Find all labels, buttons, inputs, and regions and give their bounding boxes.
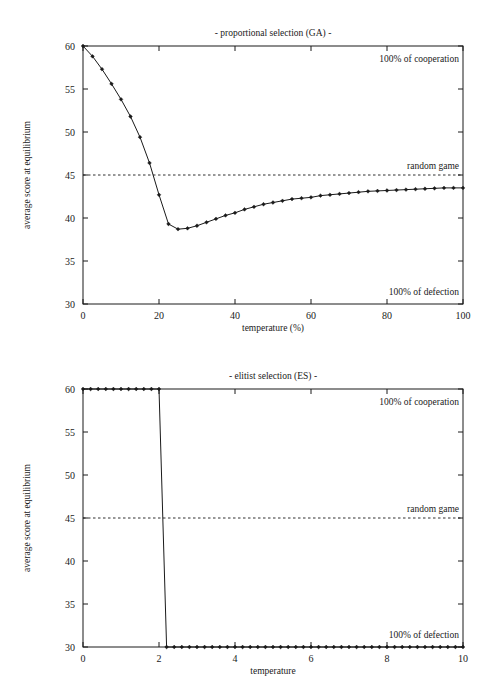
- y-tick-label: 30: [65, 299, 75, 310]
- annotation--of-defection: 100% of defection: [389, 630, 459, 640]
- data-point-marker: [188, 645, 192, 649]
- data-point-marker: [454, 645, 458, 649]
- data-point-marker: [150, 387, 154, 391]
- annotation-random-game: random game: [407, 161, 459, 171]
- data-point-marker: [271, 201, 275, 205]
- data-point-marker: [328, 193, 332, 197]
- proportional-selection-ga-svg: - proportional selection (GA) -303540455…: [0, 0, 495, 343]
- data-point-marker: [395, 188, 399, 192]
- x-tick-label: 0: [81, 653, 86, 664]
- data-point-marker: [271, 645, 275, 649]
- data-point-marker: [279, 645, 283, 649]
- data-point-marker: [317, 645, 321, 649]
- x-tick-label: 8: [385, 653, 390, 664]
- y-tick-label: 35: [65, 256, 75, 267]
- y-tick-label: 60: [65, 41, 75, 52]
- data-point-marker: [112, 387, 116, 391]
- data-point-marker: [446, 645, 450, 649]
- x-tick-label: 80: [382, 310, 392, 321]
- data-point-marker: [233, 211, 237, 215]
- elitist-selection-es-svg: - elitist selection (ES) -30354045505560…: [0, 343, 495, 686]
- data-point-marker: [416, 645, 420, 649]
- x-tick-label: 2: [157, 653, 162, 664]
- data-point-marker: [180, 645, 184, 649]
- y-axis-label: average score at equilibrium: [22, 463, 32, 571]
- data-point-marker: [172, 645, 176, 649]
- x-tick-label: 20: [154, 310, 164, 321]
- data-point-marker: [309, 645, 313, 649]
- data-point-marker: [224, 214, 228, 218]
- x-tick-label: 100: [456, 310, 471, 321]
- y-tick-label: 60: [65, 384, 75, 395]
- data-point-marker: [195, 224, 199, 228]
- y-tick-label: 45: [65, 170, 75, 181]
- figure-page: - proportional selection (GA) -303540455…: [0, 0, 495, 686]
- data-point-marker: [414, 187, 418, 191]
- data-point-marker: [205, 220, 209, 224]
- data-point-marker: [262, 202, 266, 206]
- data-point-marker: [167, 222, 171, 226]
- data-point-marker: [148, 161, 152, 165]
- chart-title: - elitist selection (ES) -: [229, 371, 317, 382]
- data-point-marker: [408, 645, 412, 649]
- data-point-marker: [385, 645, 389, 649]
- data-point-marker: [461, 645, 465, 649]
- data-point-marker: [127, 387, 131, 391]
- data-point-marker: [226, 645, 230, 649]
- data-point-marker: [370, 645, 374, 649]
- data-point-marker: [442, 186, 446, 190]
- data-point-marker: [362, 645, 366, 649]
- data-point-marker: [385, 189, 389, 193]
- data-point-marker: [195, 645, 199, 649]
- data-point-marker: [357, 190, 361, 194]
- y-tick-label: 50: [65, 127, 75, 138]
- data-point-marker: [134, 387, 138, 391]
- annotation-random-game: random game: [407, 504, 459, 514]
- y-tick-label: 55: [65, 84, 75, 95]
- x-tick-label: 6: [309, 653, 314, 664]
- data-point-marker: [378, 645, 382, 649]
- data-point-marker: [461, 186, 465, 190]
- data-point-marker: [366, 189, 370, 193]
- data-point-marker: [452, 186, 456, 190]
- x-tick-label: 4: [233, 653, 238, 664]
- data-point-marker: [393, 645, 397, 649]
- data-point-marker: [157, 193, 161, 197]
- data-point-marker: [376, 189, 380, 193]
- data-point-marker: [431, 645, 435, 649]
- data-point-marker: [248, 645, 252, 649]
- chart-title: - proportional selection (GA) -: [215, 28, 332, 39]
- x-tick-label: 0: [81, 310, 86, 321]
- y-tick-label: 40: [65, 213, 75, 224]
- data-point-marker: [96, 387, 100, 391]
- annotation--of-cooperation: 100% of cooperation: [379, 54, 459, 64]
- data-point-marker: [203, 645, 207, 649]
- data-point-marker: [129, 115, 133, 119]
- data-point-marker: [81, 387, 85, 391]
- data-point-marker: [286, 645, 290, 649]
- data-point-marker: [157, 387, 161, 391]
- data-point-marker: [104, 387, 108, 391]
- data-point-marker: [256, 645, 260, 649]
- data-point-marker: [281, 199, 285, 203]
- data-point-marker: [404, 188, 408, 192]
- data-point-marker: [142, 387, 146, 391]
- data-point-marker: [347, 645, 351, 649]
- data-point-marker: [433, 186, 437, 190]
- data-point-marker: [233, 645, 237, 649]
- y-tick-label: 35: [65, 599, 75, 610]
- x-axis-label: temperature: [250, 666, 295, 676]
- data-point-marker: [243, 208, 247, 212]
- y-tick-label: 30: [65, 642, 75, 653]
- data-point-marker: [302, 645, 306, 649]
- data-point-marker: [355, 645, 359, 649]
- data-point-marker: [186, 226, 190, 230]
- data-point-marker: [423, 645, 427, 649]
- data-point-marker: [309, 195, 313, 199]
- data-point-marker: [252, 205, 256, 209]
- data-point-marker: [89, 387, 93, 391]
- chart-proportional-selection-ga: - proportional selection (GA) -303540455…: [0, 0, 495, 343]
- y-tick-label: 45: [65, 513, 75, 524]
- annotation--of-cooperation: 100% of cooperation: [379, 397, 459, 407]
- data-point-marker: [290, 197, 294, 201]
